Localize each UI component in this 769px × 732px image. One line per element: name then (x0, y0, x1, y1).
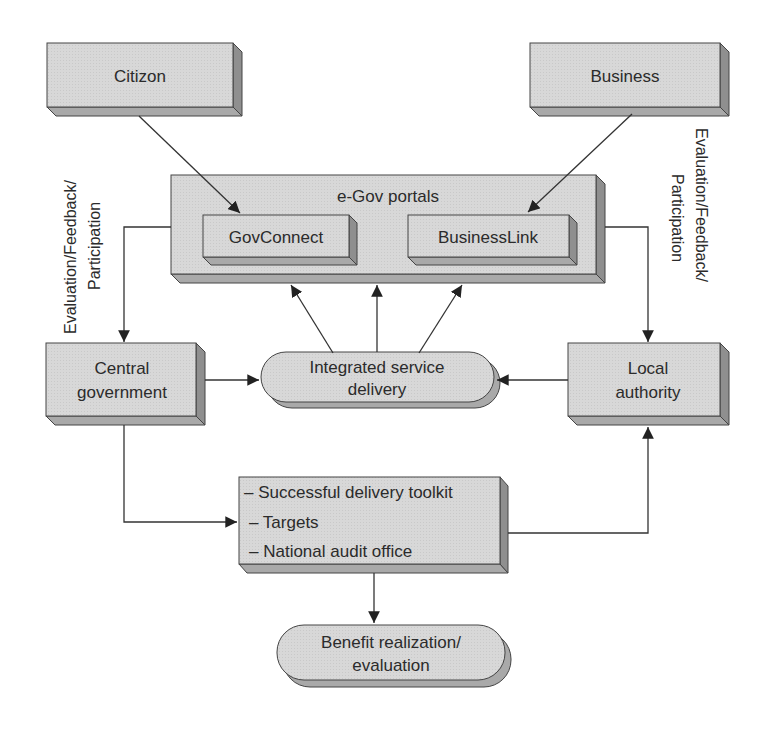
edge-central-toolkit (124, 425, 237, 522)
node-businesslink: BusinessLink (408, 215, 577, 265)
edge-toolkit-local (508, 427, 648, 533)
local-authority-line2: authority (615, 383, 681, 402)
node-integrated-service-delivery: Integrated service delivery (261, 352, 500, 408)
edge-integrated-egov-3 (419, 285, 462, 353)
right-label-line2: Participation (669, 174, 686, 262)
integrated-service-line1: Integrated service (309, 358, 444, 377)
benefit-line1: Benefit realization/ (321, 633, 461, 652)
local-authority-line1: Local (628, 359, 669, 378)
node-central-government: Central government (46, 343, 205, 425)
central-government-line2: government (77, 383, 167, 402)
edge-egov-central (124, 227, 171, 342)
citizen-label: Citizon (114, 67, 166, 86)
side-label-left: Evaluation/Feedback/ Participation (62, 180, 103, 334)
node-business: Business (530, 43, 729, 116)
node-toolkit: – Successful delivery toolkit – Targets … (239, 477, 508, 573)
integrated-service-line2: delivery (348, 380, 407, 399)
left-label-line1: Evaluation/Feedback/ (62, 180, 79, 334)
central-government-line1: Central (95, 359, 150, 378)
node-benefit-realization: Benefit realization/ evaluation (277, 625, 511, 687)
toolkit-item-2: – Targets (249, 513, 319, 532)
toolkit-item-3: – National audit office (249, 542, 412, 561)
benefit-line2: evaluation (352, 656, 430, 675)
right-label-line1: Evaluation/Feedback/ (693, 128, 710, 282)
govconnect-label: GovConnect (229, 228, 324, 247)
egov-portals-label: e-Gov portals (337, 187, 439, 206)
toolkit-item-1: – Successful delivery toolkit (244, 483, 453, 502)
egov-diagram: Citizon Business e-Gov portals GovConnec… (0, 0, 769, 732)
edge-integrated-egov-1 (291, 285, 333, 353)
node-govconnect: GovConnect (203, 215, 357, 265)
left-label-line2: Participation (86, 202, 103, 290)
node-local-authority: Local authority (568, 343, 729, 425)
business-label: Business (591, 67, 660, 86)
businesslink-label: BusinessLink (438, 228, 539, 247)
side-label-right: Evaluation/Feedback/ Participation (669, 128, 710, 282)
edge-egov-local (605, 227, 648, 342)
node-egov-portals: e-Gov portals GovConnect BusinessLink (171, 175, 605, 283)
node-citizen: Citizon (47, 43, 242, 116)
